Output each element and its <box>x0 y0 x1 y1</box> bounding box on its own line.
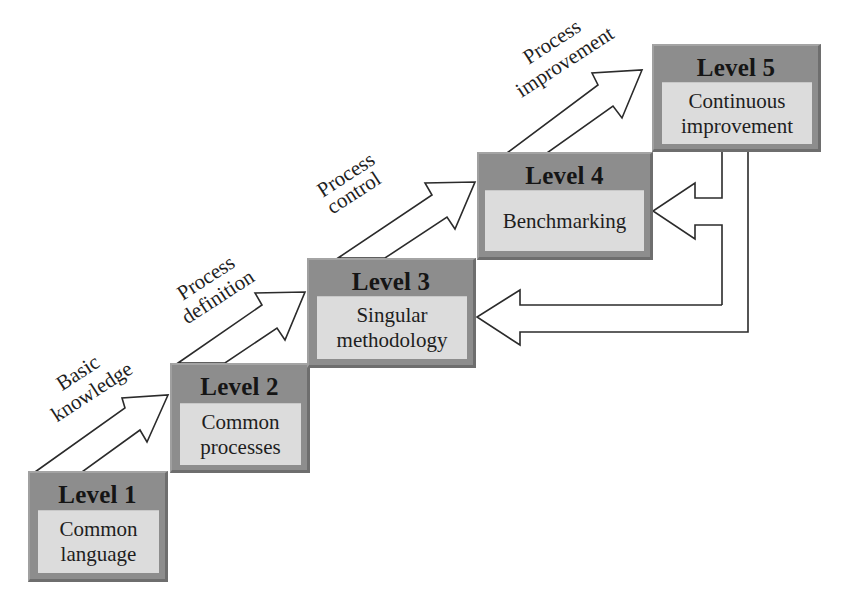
level-description-line: improvement <box>681 114 793 139</box>
level-title: Level 4 <box>479 163 650 188</box>
level-5-box: Level 5 Continuous improvement <box>652 44 821 152</box>
level-description-panel: Benchmarking <box>485 190 644 251</box>
level-description-line: Continuous <box>689 89 786 114</box>
level-description-panel: Common processes <box>180 403 301 465</box>
level-description-panel: Singular methodology <box>317 296 467 359</box>
level-title: Level 5 <box>654 55 818 80</box>
level-4-box: Level 4 Benchmarking <box>477 152 653 260</box>
maturity-staircase-diagram: Level 1 Common language Level 2 Common p… <box>0 0 855 613</box>
level-title: Level 2 <box>172 374 307 399</box>
level-description-line: Common <box>59 517 137 542</box>
level-description-panel: Continuous improvement <box>662 82 812 144</box>
level-2-box: Level 2 Common processes <box>170 363 310 473</box>
level-title: Level 3 <box>309 269 473 294</box>
level-description-line: Benchmarking <box>503 209 627 234</box>
level-title: Level 1 <box>30 482 165 507</box>
level-description-line: methodology <box>337 328 448 353</box>
level-description-line: Common <box>201 410 279 435</box>
level-description-line: processes <box>200 435 280 460</box>
left-arrow-icon <box>653 152 722 305</box>
level-description-line: Singular <box>356 303 427 328</box>
level-description-panel: Common language <box>38 510 159 573</box>
level-description-line: language <box>61 542 137 567</box>
level-3-box: Level 3 Singular methodology <box>307 258 476 368</box>
feedback-arrow-level5-to-level4 <box>653 152 722 305</box>
level-1-box: Level 1 Common language <box>28 471 168 582</box>
